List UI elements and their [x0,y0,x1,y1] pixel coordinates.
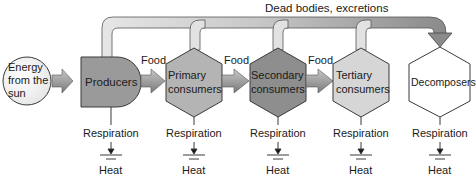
heat-label-producers: Heat [99,164,122,177]
primary-line-2: consumers [168,82,222,96]
energy-flow-diagram [0,0,476,180]
secondary-line-1: Secondary [251,68,305,82]
heat-label-tertiary: Heat [349,164,372,177]
secondary-consumers-label: Secondary consumers [251,68,305,96]
food-label-2: Food [224,54,249,67]
arrow-right-icon [141,69,165,93]
primary-consumers-label: Primary consumers [168,68,222,96]
heat-label-secondary: Heat [266,164,289,177]
respiration-label-secondary: Respiration [250,127,306,140]
sun-line-3: sun [8,87,52,100]
tertiary-consumers-label: Tertiary consumers [336,68,390,96]
tertiary-line-1: Tertiary [336,68,390,82]
arrow-right-icon [52,69,73,93]
sun-line-2: from the [8,74,52,87]
arrow-down-icon [428,33,452,47]
dead-bodies-label: Dead bodies, excretions [265,2,388,15]
secondary-line-2: consumers [251,82,305,96]
food-label-1: Food [141,54,166,67]
respiration-label-producers: Respiration [83,127,139,140]
respiration-label-primary: Respiration [166,127,222,140]
sun-energy-label: Energy from the sun [8,61,52,100]
arrow-right-icon [222,69,249,93]
food-label-3: Food [308,54,333,67]
arrow-right-icon [306,69,333,93]
primary-line-1: Primary [168,68,222,82]
sun-line-1: Energy [8,61,52,74]
respiration-label-decomposers: Respiration [412,127,468,140]
heat-label-primary: Heat [182,164,205,177]
decomposers-label: Decomposers [411,75,476,89]
heat-label-decomposers: Heat [428,164,451,177]
producers-label: Producers [85,75,137,89]
respiration-label-tertiary: Respiration [333,127,389,140]
tertiary-line-2: consumers [336,82,390,96]
